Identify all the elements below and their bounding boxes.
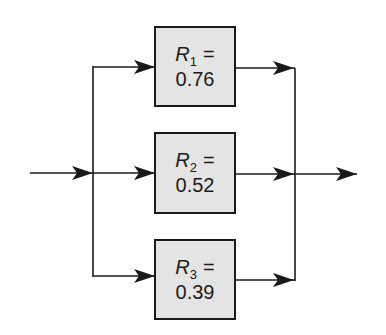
block-r3-value: 0.39 <box>176 281 215 303</box>
reliability-diagram: R1= 0.76 R2= 0.52 R3= 0.39 <box>0 0 386 335</box>
block-r3: R3= 0.39 <box>155 240 235 319</box>
block-r3-subscript: 3 <box>190 267 197 282</box>
block-r3-equals: = <box>203 256 215 278</box>
block-r3-symbol: R <box>175 256 189 278</box>
block-r1: R1= 0.76 <box>155 27 235 106</box>
block-r2-subscript: 2 <box>190 160 197 175</box>
block-r1-value: 0.76 <box>176 68 215 90</box>
block-r2: R2= 0.52 <box>155 133 235 213</box>
block-r1-symbol: R <box>175 43 189 65</box>
block-r2-equals: = <box>203 149 215 171</box>
block-r2-value: 0.52 <box>176 174 215 196</box>
block-r1-subscript: 1 <box>190 54 197 69</box>
block-r2-symbol: R <box>175 149 189 171</box>
block-r1-equals: = <box>203 43 215 65</box>
